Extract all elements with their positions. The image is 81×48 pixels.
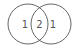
right-only-label: 1 [50, 19, 56, 30]
corner-mark: ′ [62, 11, 64, 17]
intersection-label: 2 [36, 19, 42, 30]
left-only-label: 1 [22, 19, 28, 30]
venn-diagram: 1 2 1 ′ [0, 0, 81, 48]
